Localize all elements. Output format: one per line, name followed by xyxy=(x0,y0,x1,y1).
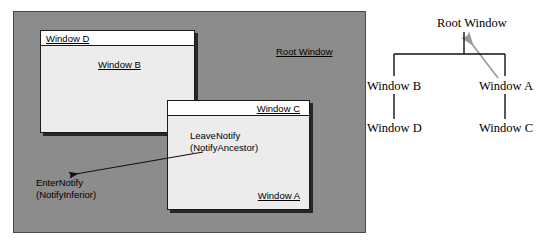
tree-node-window-d: Window D xyxy=(367,121,422,136)
figure-canvas: Root Window Window D Window B Window C L… xyxy=(0,0,552,248)
leave-notify-annotation: LeaveNotify (NotifyAncestor) xyxy=(190,130,258,154)
root-window-label: Root Window xyxy=(276,46,333,57)
tree-node-window-a: Window A xyxy=(479,79,533,94)
enter-notify-line-1: EnterNotify xyxy=(36,177,96,189)
tree-node-root: Root Window xyxy=(437,16,507,31)
window-d-titlebar[interactable]: Window D xyxy=(41,31,194,46)
tree-node-window-b: Window B xyxy=(367,79,421,94)
window-c-body: LeaveNotify (NotifyAncestor) Window A xyxy=(168,116,309,209)
tree-node-window-c: Window C xyxy=(479,121,533,136)
window-d-title: Window D xyxy=(46,33,89,44)
leave-notify-line-1: LeaveNotify xyxy=(190,130,258,142)
window-c-title: Window C xyxy=(257,103,300,114)
window-c-titlebar[interactable]: Window C xyxy=(168,101,309,116)
tree-edges xyxy=(394,32,505,119)
enter-notify-line-2: (NotifyInferior) xyxy=(36,189,96,201)
window-b-label: Window B xyxy=(98,59,141,70)
tree-pointer-arrow xyxy=(466,36,498,78)
window-c[interactable]: Window C LeaveNotify (NotifyAncestor) Wi… xyxy=(167,100,310,210)
enter-notify-annotation: EnterNotify (NotifyInferior) xyxy=(36,177,96,201)
window-a-label: Window A xyxy=(258,190,300,201)
leave-notify-line-2: (NotifyAncestor) xyxy=(190,142,258,154)
